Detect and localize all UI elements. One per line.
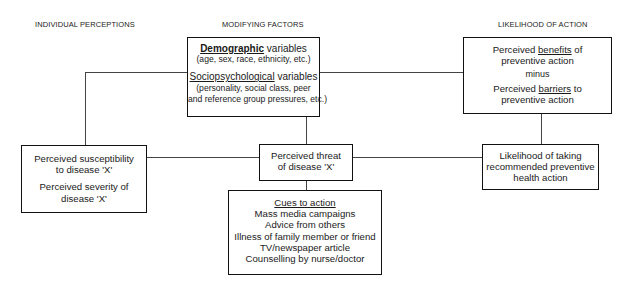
- benefits-underlined: benefits: [538, 44, 572, 55]
- demographic-underlined: Demographic: [200, 43, 264, 54]
- sociopsychological-detail-1: (personality, social class, peer: [188, 83, 319, 94]
- individual-perceptions-box: Perceived susceptibility to disease 'X' …: [21, 145, 147, 213]
- benefits-barriers-box: Perceived benefits of preventive action …: [463, 37, 612, 114]
- perceived-threat-box: Perceived threat of disease 'X': [259, 144, 353, 181]
- column-title-individual-perceptions: INDIVIDUAL PERCEPTIONS: [35, 20, 135, 29]
- likelihood-line-3: health action: [483, 172, 598, 183]
- threat-line-1: Perceived threat: [260, 150, 352, 161]
- sociopsychological-heading-rest: variables: [275, 71, 318, 82]
- sociopsychological-detail-2: and reference group pressures, etc.): [188, 94, 319, 105]
- sociopsychological-variables-heading: Sociopsychological variables: [188, 71, 319, 82]
- susceptibility-line-1: Perceived susceptibility: [22, 153, 146, 164]
- minus-label: minus: [464, 69, 611, 80]
- connector-benefits-to-likelihood: [541, 114, 542, 144]
- susceptibility-line-2: to disease 'X': [22, 164, 146, 175]
- connector-mf-to-benefits: [320, 72, 463, 73]
- sociopsychological-underlined: Sociopsychological: [190, 71, 275, 82]
- benefits-suffix: of: [572, 44, 583, 55]
- demographic-heading-rest: variables: [264, 43, 307, 54]
- cues-heading: Cues to action: [229, 197, 381, 208]
- demographic-detail: (age, sex, race, ethnicity, etc.): [188, 54, 319, 65]
- cue-item: Counselling by nurse/doctor: [229, 253, 381, 264]
- severity-line-2: disease 'X': [22, 193, 146, 204]
- likelihood-line-1: Likelihood of taking: [483, 150, 598, 161]
- severity-line-1: Perceived severity of: [22, 181, 146, 192]
- barriers-prefix: Perceived: [493, 83, 538, 94]
- cue-item: TV/newspaper article: [229, 242, 381, 253]
- cue-item: Mass media campaigns: [229, 208, 381, 219]
- benefits-prefix: Perceived: [493, 44, 538, 55]
- barriers-line: Perceived barriers to: [464, 83, 611, 94]
- connector-mf-to-left: [85, 72, 187, 73]
- benefits-line: Perceived benefits of: [464, 44, 611, 55]
- likelihood-line-2: recommended preventive: [483, 161, 598, 172]
- benefits-line-2: preventive action: [464, 55, 611, 66]
- connector-threat-to-likelihood: [353, 157, 482, 158]
- modifying-factors-box: Demographic variables (age, sex, race, e…: [187, 37, 320, 117]
- column-title-likelihood-of-action: LIKELIHOOD OF ACTION: [498, 20, 588, 29]
- connector-threat-to-cues: [306, 181, 307, 190]
- barriers-line-2: preventive action: [464, 94, 611, 105]
- threat-line-2: of disease 'X': [260, 161, 352, 172]
- connector-left-vertical: [85, 72, 86, 145]
- column-title-modifying-factors: MODIFYING FACTORS: [222, 20, 304, 29]
- demographic-variables-heading: Demographic variables: [188, 43, 319, 54]
- barriers-suffix: to: [571, 83, 582, 94]
- cues-to-action-box: Cues to action Mass media campaigns Advi…: [228, 190, 382, 275]
- likelihood-of-action-box: Likelihood of taking recommended prevent…: [482, 144, 599, 190]
- connector-mf-to-threat: [306, 117, 307, 144]
- cue-item: Advice from others: [229, 219, 381, 230]
- cue-item: Illness of family member or friend: [229, 231, 381, 242]
- connector-perceptions-to-threat: [147, 157, 259, 158]
- barriers-underlined: barriers: [539, 83, 572, 94]
